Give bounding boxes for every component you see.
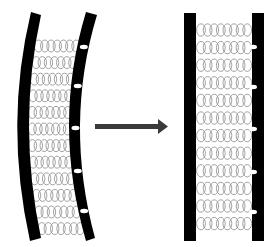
arrow-right-icon	[95, 119, 168, 134]
wall-notch	[71, 126, 79, 130]
right-outer-wall	[184, 13, 196, 241]
coil-loop	[243, 217, 252, 229]
wall-notch	[249, 210, 257, 214]
coil-loop	[243, 129, 252, 141]
coil-loop	[243, 200, 252, 212]
left-panel-curved	[17, 12, 97, 241]
coil-loop	[243, 94, 252, 106]
wall-notch	[249, 85, 257, 89]
wall-notch	[249, 127, 257, 131]
wall-notch	[80, 209, 88, 213]
coil-loop	[243, 112, 252, 124]
wall-notch	[249, 45, 257, 49]
wall-notch	[74, 84, 82, 88]
wall-notch	[249, 170, 257, 174]
coil-loop	[243, 59, 252, 71]
wall-notch	[74, 169, 82, 173]
coil-loop	[243, 147, 252, 159]
right-coils	[197, 24, 252, 230]
wall-notch	[80, 45, 88, 49]
coil-loop	[243, 24, 252, 36]
right-panel-straight	[184, 13, 264, 241]
diagram-canvas	[0, 0, 268, 247]
coil-loop	[243, 182, 252, 194]
